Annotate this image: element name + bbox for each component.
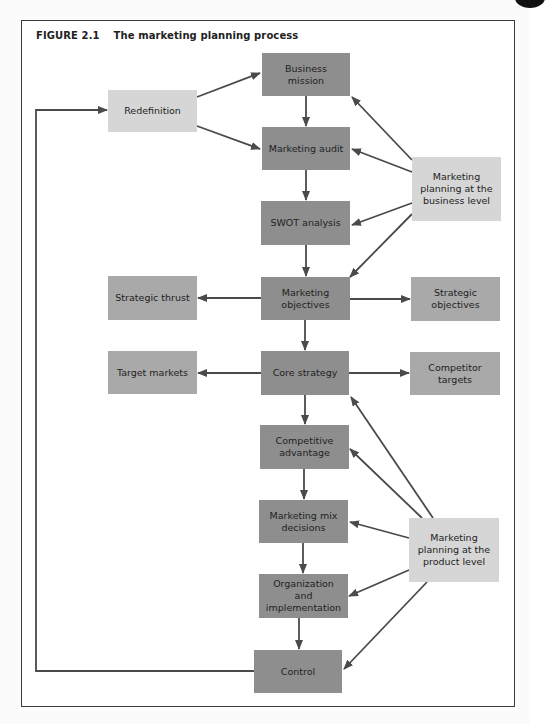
node-competitor-targets: Competitor targets [410, 352, 500, 395]
arrow-product-level-to-organization [349, 570, 409, 596]
node-marketing-audit: Marketing audit [262, 127, 350, 170]
arrow-product-level-to-mix [350, 522, 409, 538]
node-competitive-advantage: Competitive advantage [260, 425, 349, 469]
node-organization-implementation: Organization and implementation [259, 574, 348, 618]
arrow-business-level-to-mission [352, 97, 412, 160]
arrow-product-level-to-control [344, 582, 427, 669]
node-strategic-objectives: Strategic objectives [411, 277, 500, 321]
node-target-markets: Target markets [108, 351, 197, 394]
arrow-business-level-to-objectives [350, 214, 412, 277]
arrow-business-level-to-audit [352, 149, 412, 172]
arrow-redefinition-to-audit [197, 126, 260, 149]
node-planning-business-level: Marketing planning at the business level [412, 157, 501, 221]
arrow-redefinition-to-mission [197, 73, 260, 97]
node-core-strategy: Core strategy [261, 351, 349, 395]
arrow-business-level-to-swot [352, 203, 412, 225]
node-redefinition: Redefinition [108, 90, 197, 132]
arrow-product-level-to-advantage [350, 449, 422, 518]
node-strategic-thrust: Strategic thrust [108, 276, 197, 320]
arrow-product-level-to-core [351, 397, 433, 518]
node-swot-analysis: SWOT analysis [261, 201, 350, 245]
node-marketing-mix-decisions: Marketing mix decisions [259, 500, 348, 543]
node-control: Control [254, 650, 342, 693]
node-planning-product-level: Marketing planning at the product level [409, 518, 499, 582]
node-business-mission: Business mission [262, 53, 350, 96]
node-marketing-objectives: Marketing objectives [261, 277, 350, 320]
